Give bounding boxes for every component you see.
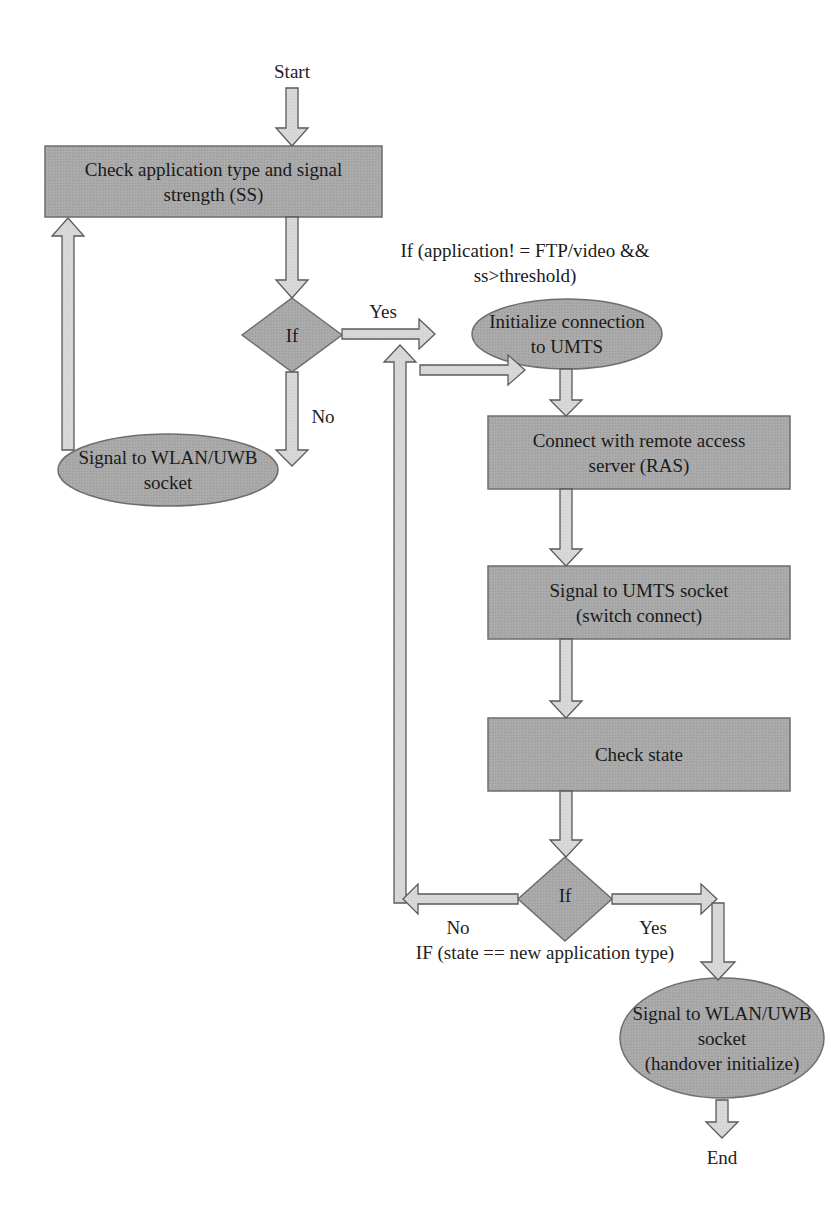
arrow-decision1-no: [276, 372, 308, 466]
check-state-label: Check state: [488, 718, 790, 791]
arrow-handover-to-end: [706, 1100, 738, 1138]
end-label: End: [697, 1146, 747, 1170]
arrow-umts-socket-to-state: [550, 639, 582, 718]
arrow-to-handover: [701, 903, 735, 980]
signal-wlan-label: Signal to WLAN/UWB socket: [58, 436, 278, 504]
decision1-no-label: No: [305, 405, 341, 429]
arrow-umts-to-ras: [550, 369, 582, 416]
signal-umts-label: Signal to UMTS socket (switch connect): [488, 566, 790, 639]
arrow-decision2-no: [403, 884, 518, 914]
decision2-no-label: No: [438, 916, 478, 940]
condition1-annotation: If (application! = FTP/video && ss>thres…: [370, 238, 680, 288]
check-application-label: Check application type and signal streng…: [45, 146, 382, 217]
decision1-yes-label: Yes: [360, 300, 406, 324]
arrow-start-to-check: [276, 88, 308, 146]
arrow-decision2-yes: [612, 884, 717, 914]
decision2-yes-label: Yes: [630, 916, 676, 940]
connect-ras-label: Connect with remote access server (RAS): [488, 416, 790, 489]
arrow-check-to-decision1: [276, 217, 308, 298]
decision1-label: If: [262, 320, 322, 350]
init-umts-label: Initialize connection to UMTS: [472, 300, 662, 368]
arrow-loop-to-check: [52, 218, 84, 450]
arrow-state-to-decision2: [550, 791, 582, 857]
handover-label: Signal to WLAN/UWB socket (handover init…: [620, 990, 824, 1086]
decision2-label: If: [535, 880, 595, 910]
condition2-annotation: IF (state == new application type): [390, 941, 700, 965]
arrow-ras-to-umts-socket: [550, 489, 582, 566]
arrow-loop-vertical: [384, 345, 416, 903]
start-label: Start: [262, 60, 322, 84]
